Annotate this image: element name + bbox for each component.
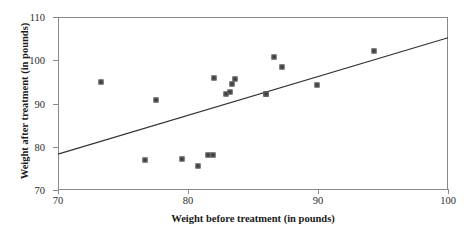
data-point	[264, 91, 269, 96]
data-point	[279, 65, 284, 70]
data-point	[232, 76, 237, 81]
x-axis-tick-label: 90	[313, 195, 324, 206]
x-axis-tick-label: 80	[183, 195, 194, 206]
x-axis-tick-label: 70	[53, 195, 64, 206]
x-axis-tick	[448, 189, 449, 194]
data-point	[271, 54, 276, 59]
data-point	[230, 81, 235, 86]
data-point	[143, 157, 148, 162]
data-point	[210, 152, 215, 157]
data-point	[212, 76, 217, 81]
x-axis-tick-label: 100	[440, 195, 456, 206]
data-point	[179, 157, 184, 162]
y-axis-title: Weight after treatment (in pounds)	[16, 6, 34, 196]
y-axis-tick-label: 80	[35, 141, 46, 152]
y-axis-tick-label: 90	[35, 98, 46, 109]
y-axis-tick-label: 110	[30, 12, 45, 23]
data-point-group	[58, 17, 448, 190]
x-axis-title: Weight before treatment (in pounds)	[58, 213, 448, 224]
scatter-plot-figure: Weight after treatment (in pounds) Weigh…	[0, 0, 473, 238]
y-axis-tick-label: 100	[29, 55, 45, 66]
data-point	[196, 164, 201, 169]
data-point	[371, 49, 376, 54]
data-point	[153, 97, 158, 102]
plot-area: 708090100110 708090100	[58, 17, 448, 190]
data-point	[314, 82, 319, 87]
data-point	[227, 89, 232, 94]
data-point	[98, 80, 103, 85]
y-axis-tick-label: 70	[35, 185, 46, 196]
